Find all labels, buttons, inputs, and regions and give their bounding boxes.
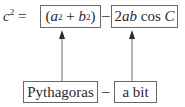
arrow-up-icon-right [129, 30, 135, 81]
a-bit-label-box: a bit [114, 81, 157, 103]
arrow-up-icon-left [59, 30, 65, 81]
pythagoras-label-box: Pythagoras [23, 81, 98, 103]
label-minus-sign: – [102, 83, 110, 100]
